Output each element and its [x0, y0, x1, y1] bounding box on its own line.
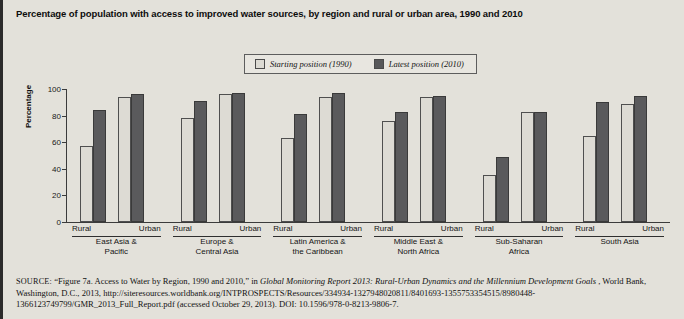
bar-1990: [382, 121, 395, 222]
bar-2010: [294, 114, 307, 222]
bar-pair-sub-saharan-africa-urban: [521, 89, 547, 222]
bar-2010: [194, 101, 207, 222]
legend-item-1990: Starting position (1990): [255, 59, 352, 69]
bar-1990: [583, 136, 596, 222]
bar-pair-latin-america-the-caribbean-rural: [281, 89, 307, 222]
bar-pair-middle-east-north-africa-urban: [420, 89, 446, 222]
bar-2010: [534, 112, 547, 222]
source-text-1: “Figure 7a. Access to Water by Region, 1…: [54, 276, 260, 286]
bar-2010: [232, 93, 245, 222]
bar-2010: [496, 157, 509, 222]
legend-item-2010: Latest position (2010): [374, 59, 464, 69]
bar-pair-latin-america-the-caribbean-urban: [319, 89, 345, 222]
bar-pair-middle-east-north-africa-rural: [382, 89, 408, 222]
bar-2010: [332, 93, 345, 222]
legend-label-2010: Latest position (2010): [389, 59, 464, 69]
x-sub-label-rural: Rural: [575, 224, 594, 234]
x-sub-label-urban: Urban: [139, 224, 161, 234]
bar-2010: [596, 102, 609, 222]
bar-pair-east-asia-pacific-rural: [80, 89, 106, 222]
page-left-rule: [0, 0, 3, 319]
x-group-underline: [173, 236, 262, 237]
figure-title: Percentage of population with access to …: [16, 8, 666, 19]
bar-1990: [521, 112, 534, 222]
x-sub-label-rural: Rural: [374, 224, 393, 234]
x-sub-label-urban: Urban: [542, 224, 564, 234]
x-sub-label-rural: Rural: [273, 224, 292, 234]
figure-page: Percentage of population with access to …: [0, 0, 684, 319]
x-group-middle-east-north-africa: RuralUrbanMiddle East &North Africa: [368, 224, 469, 257]
legend-swatch-dark-icon: [374, 59, 384, 69]
source-label: SOURCE:: [16, 277, 52, 286]
source-italic-1: Global Monitoring Report 2013: Rural-Urb…: [260, 276, 596, 286]
source-note: SOURCE: “Figure 7a. Access to Water by R…: [16, 276, 672, 311]
bar-1990: [118, 97, 131, 222]
bar-1990: [281, 138, 294, 222]
x-group-underline: [475, 236, 564, 237]
bar-2010: [131, 94, 144, 222]
x-group-underline: [273, 236, 362, 237]
x-region-name: Sub-SaharanAfrica: [469, 237, 570, 257]
bar-pair-south-asia-rural: [583, 89, 609, 222]
legend-swatch-light-icon: [255, 59, 265, 69]
chart-legend: Starting position (1990) Latest position…: [244, 54, 477, 74]
bar-pair-sub-saharan-africa-rural: [483, 89, 509, 222]
bar-pair-europe-central-asia-rural: [181, 89, 207, 222]
x-group-underline: [72, 236, 161, 237]
plot-area: 020406080100: [66, 89, 670, 222]
x-sub-label-urban: Urban: [642, 224, 664, 234]
bar-1990: [181, 118, 194, 222]
bar-1990: [483, 175, 496, 222]
bar-1990: [420, 97, 433, 222]
x-group-sub-saharan-africa: RuralUrbanSub-SaharanAfrica: [469, 224, 570, 257]
bar-pair-europe-central-asia-urban: [219, 89, 245, 222]
x-region-name: East Asia &Pacific: [66, 237, 167, 257]
legend-label-1990: Starting position (1990): [270, 59, 352, 69]
bar-1990: [621, 104, 634, 222]
x-axis-labels: RuralUrbanEast Asia &PacificRuralUrbanEu…: [0, 224, 684, 270]
y-tick-mark: [62, 116, 66, 117]
bar-1990: [319, 97, 332, 222]
x-region-name: South Asia: [569, 237, 670, 247]
bar-1990: [80, 146, 93, 222]
x-sub-label-urban: Urban: [340, 224, 362, 234]
x-group-east-asia-pacific: RuralUrbanEast Asia &Pacific: [66, 224, 167, 257]
x-region-name: Europe &Central Asia: [167, 237, 268, 257]
x-sub-label-rural: Rural: [475, 224, 494, 234]
x-group-europe-central-asia: RuralUrbanEurope &Central Asia: [167, 224, 268, 257]
bar-2010: [93, 110, 106, 222]
x-sub-label-urban: Urban: [441, 224, 463, 234]
x-group-south-asia: RuralUrbanSouth Asia: [569, 224, 670, 247]
x-sub-label-urban: Urban: [240, 224, 262, 234]
bar-2010: [395, 112, 408, 222]
y-tick-mark: [62, 142, 66, 143]
x-group-underline: [575, 236, 664, 237]
x-axis-line: [66, 222, 670, 223]
bar-2010: [634, 96, 647, 222]
x-sub-label-rural: Rural: [72, 224, 91, 234]
y-axis-title: Percentage: [24, 85, 33, 128]
x-region-name: Middle East &North Africa: [368, 237, 469, 257]
x-group-underline: [374, 236, 463, 237]
bar-2010: [433, 96, 446, 222]
bar-pair-east-asia-pacific-urban: [118, 89, 144, 222]
y-tick-mark: [62, 169, 66, 170]
x-group-latin-america-the-caribbean: RuralUrbanLatin America &the Caribbean: [267, 224, 368, 257]
x-region-name: Latin America &the Caribbean: [267, 237, 368, 257]
bar-1990: [219, 94, 232, 222]
y-tick-mark: [62, 222, 66, 223]
y-tick-mark: [62, 89, 66, 90]
y-tick-mark: [62, 195, 66, 196]
bar-pair-south-asia-urban: [621, 89, 647, 222]
x-sub-label-rural: Rural: [173, 224, 192, 234]
